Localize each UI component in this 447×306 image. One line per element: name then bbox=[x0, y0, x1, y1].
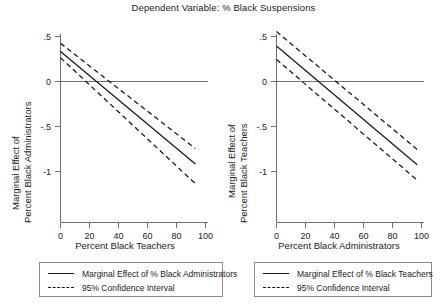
ci-lower-line-left bbox=[61, 58, 196, 184]
legend-label: Marginal Effect of % Black Administrator… bbox=[82, 269, 237, 279]
plot-area-right: .5 0 -.5 -1 0 20 40 60 80 100 bbox=[224, 18, 447, 256]
y-tick-label: .5 bbox=[259, 32, 267, 42]
y-tick-label: -1 bbox=[259, 167, 267, 177]
legend-entry-confidence-interval-left: 95% Confidence Interval bbox=[46, 282, 175, 294]
y-axis-label-line1-right: Marginal Effect of bbox=[226, 124, 237, 198]
x-axis-label-left: Percent Black Teachers bbox=[30, 240, 220, 251]
y-tick-labels-right: .5 0 -.5 -1 bbox=[256, 32, 267, 177]
ci-upper-line-right bbox=[277, 32, 418, 150]
y-axis-label-line2-left: Percent Black Administrators bbox=[22, 102, 33, 223]
y-tick-label: 0 bbox=[262, 77, 267, 87]
marginal-effect-line-left bbox=[61, 51, 196, 163]
chart-panel-right: .5 0 -.5 -1 0 20 40 60 80 100 bbox=[224, 18, 447, 256]
y-tick-label: -.5 bbox=[40, 122, 51, 132]
legend-key-solid-line-icon bbox=[46, 269, 76, 279]
chart-panel-left: .5 0 -.5 -1 0 20 40 60 80 100 bbox=[0, 18, 223, 256]
legend-entry-marginal-effect-right: Marginal Effect of % Black Teachers bbox=[261, 268, 433, 280]
marginal-effect-line-right bbox=[277, 46, 418, 165]
y-tick-labels-left: .5 0 -.5 -1 bbox=[40, 32, 51, 177]
legend-key-solid-line-icon bbox=[261, 269, 291, 279]
ci-lower-line-right bbox=[277, 60, 418, 181]
x-ticks-left bbox=[61, 223, 206, 229]
y-axis-label-line2-right: Percent Black Teachers bbox=[238, 123, 249, 223]
legend-entry-marginal-effect-left: Marginal Effect of % Black Administrator… bbox=[46, 268, 237, 280]
legend-label: 95% Confidence Interval bbox=[297, 283, 390, 293]
y-tick-label: -.5 bbox=[256, 122, 267, 132]
y-ticks-left bbox=[55, 37, 61, 172]
legend-key-dashed-line-icon bbox=[46, 283, 76, 293]
y-tick-label: -1 bbox=[43, 167, 51, 177]
y-axis-label-line1-left: Marginal Effect of bbox=[10, 136, 21, 210]
x-axis-label-right: Percent Black Administrators bbox=[244, 240, 434, 251]
x-ticks-right bbox=[277, 223, 422, 229]
legend-entry-confidence-interval-right: 95% Confidence Interval bbox=[261, 282, 390, 294]
legend-label: Marginal Effect of % Black Teachers bbox=[297, 269, 433, 279]
legend-right: Marginal Effect of % Black Teachers 95% … bbox=[254, 262, 432, 297]
plot-area-left: .5 0 -.5 -1 0 20 40 60 80 100 bbox=[0, 18, 223, 256]
y-ticks-right bbox=[271, 37, 277, 172]
legend-label: 95% Confidence Interval bbox=[82, 283, 175, 293]
y-tick-label: .5 bbox=[43, 32, 51, 42]
legend-key-dashed-line-icon bbox=[261, 283, 291, 293]
figure-container: Dependent Variable: % Black Suspensions … bbox=[0, 0, 447, 306]
y-tick-label: 0 bbox=[46, 77, 51, 87]
figure-title: Dependent Variable: % Black Suspensions bbox=[0, 2, 447, 13]
ci-upper-line-left bbox=[61, 43, 196, 148]
legend-left: Marginal Effect of % Black Administrator… bbox=[39, 262, 223, 297]
